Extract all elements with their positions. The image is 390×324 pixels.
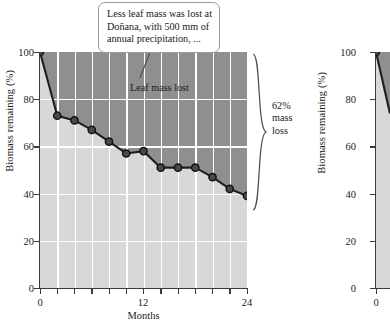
callout-box: Less leaf mass was lost at Doñana, with …: [98, 2, 220, 53]
figure-container: Biomass remaining (%) 100 80 60 40 20 0: [0, 0, 390, 324]
leader-stroke: [140, 52, 150, 78]
y-tick-label: 0: [351, 283, 356, 294]
y-tick-label: 100: [340, 47, 356, 58]
y-tick-label: 80: [346, 94, 357, 105]
brace-stroke: [253, 54, 266, 210]
plot-area-right: [376, 52, 390, 288]
region-label-leaf-mass-lost: Leaf mass lost: [130, 82, 189, 93]
y-tick-label: 20: [346, 235, 357, 246]
mass-loss-line: 62%: [272, 100, 308, 112]
mass-loss-brace: [250, 52, 272, 212]
y-axis-title: Biomass remaining (%): [316, 72, 327, 174]
y-tick-label: 40: [346, 188, 357, 199]
y-axis-line-right: [375, 52, 376, 289]
mass-loss-annotation: 62% mass loss: [272, 100, 308, 137]
data-point: [376, 52, 380, 56]
remaining-region-svg-right: [376, 52, 390, 288]
mass-loss-line: loss: [272, 125, 308, 137]
x-tick: [376, 289, 377, 294]
chart-panel-left: Biomass remaining (%) 100 80 60 40 20 0: [0, 0, 312, 324]
mass-loss-line: mass: [272, 112, 308, 124]
y-tick-label: 60: [346, 141, 357, 152]
x-axis-line-right: [375, 288, 390, 289]
x-tick-label: 0: [373, 297, 378, 308]
y-axis-tick-labels: 100 80 60 40 20 0: [330, 0, 356, 324]
